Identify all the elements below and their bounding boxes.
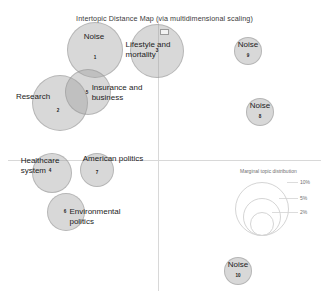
legend-label: 5% [300,195,307,201]
topic-bubble-number: 6 [64,209,67,214]
legend-label: 10% [300,179,310,185]
topic-bubble-label: Noise [228,260,248,270]
legend-tick [287,182,298,183]
topic-bubble-label: Noise [250,101,270,111]
topic-bubble-number: 2 [57,108,60,113]
topic-bubble-label: Environmental politics [69,207,120,226]
topic-bubble-label: Noise [84,32,104,42]
topic-bubble-label: Research [16,92,50,102]
topic-bubble-number: 8 [259,114,262,119]
topic-bubble-label: Healthcare system [21,156,60,175]
topic-bubble-label: Lifestyle and mortality [126,40,171,59]
legend-circle-10pct [235,182,289,236]
intertopic-distance-map: Intertopic Distance Map (via multidimens… [0,0,329,301]
topic-bubble-label: American politics [83,154,143,164]
selection-marker-icon [160,29,169,35]
topic-bubble-number: 9 [247,53,250,58]
legend-label: 2% [300,209,307,215]
topic-bubble-label: Insurance and business [92,83,143,102]
marginal-topic-distribution-legend: Marginal topic distribution 2%5%10% [214,168,326,248]
topic-bubble-number: 1 [94,55,97,60]
topic-bubble-number: 10 [235,273,240,278]
topic-bubble-number: 5 [86,90,89,95]
page-title: Intertopic Distance Map (via multidimens… [0,14,329,23]
legend-title: Marginal topic distribution [240,168,297,174]
topic-bubble-number: 7 [96,170,99,175]
topic-bubble-label: Noise [238,40,258,50]
